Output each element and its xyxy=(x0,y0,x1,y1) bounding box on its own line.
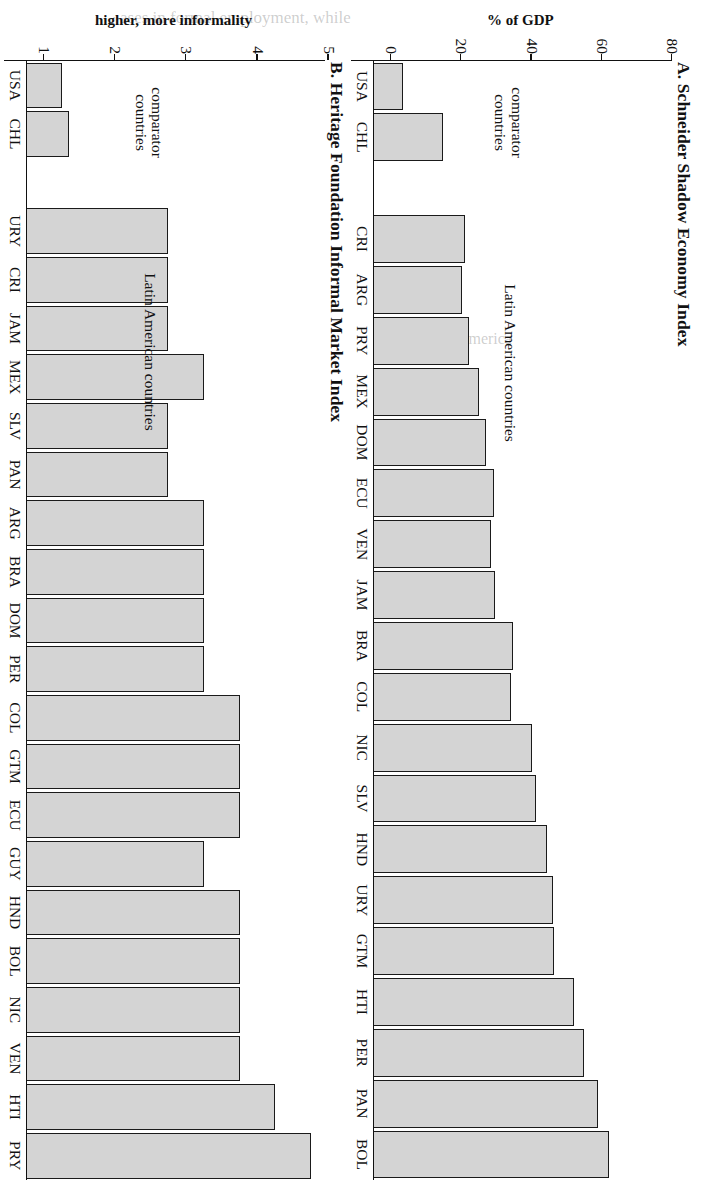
category-label-cri: CRI xyxy=(4,256,26,305)
bar-arg xyxy=(373,266,462,314)
bar-bra xyxy=(373,622,513,670)
bar-slot xyxy=(373,570,672,621)
bar-slot xyxy=(373,1027,672,1078)
bar-slot xyxy=(26,694,325,743)
category-label-usa: USA xyxy=(4,61,26,110)
category-label-blank xyxy=(4,158,26,207)
category-label-pan: PAN xyxy=(4,450,26,499)
category-label-chl: CHL xyxy=(4,110,26,159)
panel-a-plot: % of GDP 020406080 USACHLCRIARGPRYMEXDOM… xyxy=(351,10,672,1180)
bar-slot xyxy=(26,645,325,694)
tick-mark xyxy=(327,54,328,60)
category-label-ven: VEN xyxy=(351,519,373,570)
category-label-bol: BOL xyxy=(4,937,26,986)
bar-slot xyxy=(373,468,672,519)
bar-slot xyxy=(26,596,325,645)
bar-slot xyxy=(26,402,325,451)
category-label-bra: BRA xyxy=(351,620,373,671)
bar-slot xyxy=(373,1129,672,1180)
bar-slot xyxy=(373,926,672,977)
bar-slot xyxy=(26,742,325,791)
category-label-hnd: HND xyxy=(351,824,373,875)
axis-tick-1: 1 xyxy=(35,46,53,54)
bar-slot xyxy=(26,985,325,1034)
bar-mex xyxy=(373,368,479,416)
category-label-hti: HTI xyxy=(4,1083,26,1132)
bar-dom xyxy=(373,419,486,467)
panel-a-category-labels: USACHLCRIARGPRYMEXDOMECUVENJAMBRACOLNICS… xyxy=(351,61,374,1180)
bar-slot xyxy=(373,417,672,468)
category-label-slv: SLV xyxy=(351,773,373,824)
bar-cri xyxy=(373,215,465,263)
bar-hti xyxy=(373,978,574,1026)
bar-jam xyxy=(373,571,495,619)
bar-bol xyxy=(373,1131,609,1179)
category-label-gtm: GTM xyxy=(4,742,26,791)
bar-nic xyxy=(26,987,240,1033)
bar-ecu xyxy=(373,469,494,517)
axis-tick-2: 2 xyxy=(106,46,124,54)
category-label-jam: JAM xyxy=(351,570,373,621)
figure-panels: A. Schneider Shadow Economy Index % of G… xyxy=(0,0,704,1190)
category-label-col: COL xyxy=(4,694,26,743)
panel-a-bars xyxy=(373,61,672,1180)
panel-a-axis-title: % of GDP xyxy=(351,10,672,30)
bar-slot xyxy=(373,315,672,366)
panel-a-comparator-annotation: comparator countries xyxy=(492,72,525,173)
axis-tick-40: 40 xyxy=(523,39,541,55)
bar-hnd xyxy=(373,825,547,873)
bar-slot xyxy=(26,1034,325,1083)
axis-tick-5: 5 xyxy=(320,46,338,54)
bar-bra xyxy=(26,549,204,595)
axis-tick-0: 0 xyxy=(382,46,400,54)
bar-slot xyxy=(26,207,325,256)
panel-b-category-labels: USACHLURYCRIJAMMEXSLVPANARGBRADOMPERCOLG… xyxy=(4,61,27,1180)
bar-ven xyxy=(26,1036,240,1082)
category-label-dom: DOM xyxy=(4,596,26,645)
axis-tick-20: 20 xyxy=(452,39,470,55)
bar-slot xyxy=(26,353,325,402)
category-label-nic: NIC xyxy=(4,985,26,1034)
category-label-arg: ARG xyxy=(4,499,26,548)
category-label-slv: SLV xyxy=(4,402,26,451)
bar-slot xyxy=(26,840,325,889)
bar-slot xyxy=(373,1078,672,1129)
bar-slot xyxy=(26,1131,325,1180)
panel-a-tick-column: 020406080 xyxy=(351,30,672,60)
axis-tick-4: 4 xyxy=(249,46,267,54)
category-label-per: PER xyxy=(351,1027,373,1078)
category-label-chl: CHL xyxy=(351,112,373,163)
bar-usa xyxy=(26,63,62,109)
bar-slot xyxy=(373,214,672,265)
bar-slot xyxy=(26,548,325,597)
category-label-ven: VEN xyxy=(4,1034,26,1083)
category-label-hti: HTI xyxy=(351,976,373,1027)
category-label-per: PER xyxy=(4,645,26,694)
bar-slot xyxy=(26,110,325,159)
panel-b-plot: higher, more informality 12345 USACHLURY… xyxy=(4,10,325,1180)
bar-slot xyxy=(26,1083,325,1132)
panel-a-latin-annotation: Latin American countries xyxy=(502,251,518,475)
category-label-usa: USA xyxy=(351,61,373,112)
panel-b-comparator-annotation: comparator countries xyxy=(132,72,165,173)
bar-usa xyxy=(373,63,403,111)
bar-slot xyxy=(26,888,325,937)
bar-slot xyxy=(373,519,672,570)
category-label-blank xyxy=(351,163,373,214)
bar-slot xyxy=(373,722,672,773)
category-label-guy: GUY xyxy=(4,840,26,889)
category-label-ecu: ECU xyxy=(4,791,26,840)
bar-slot xyxy=(373,264,672,315)
figure-rotator: A. Schneider Shadow Economy Index % of G… xyxy=(0,0,704,1190)
panel-a: A. Schneider Shadow Economy Index % of G… xyxy=(351,10,698,1180)
panel-b: B. Heritage Foundation Informal Market I… xyxy=(4,10,351,1180)
bar-arg xyxy=(26,500,204,546)
bar-slot xyxy=(373,976,672,1027)
bar-slot xyxy=(373,875,672,926)
bar-slot xyxy=(26,304,325,353)
bar-gtm xyxy=(373,927,554,975)
bar-gtm xyxy=(26,744,240,790)
panel-b-title: B. Heritage Foundation Informal Market I… xyxy=(325,62,349,1180)
bar-slot xyxy=(26,791,325,840)
category-label-pan: PAN xyxy=(351,1078,373,1129)
